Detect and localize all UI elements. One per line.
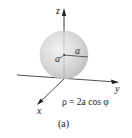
equation: ρ = 2a cos φ <box>62 97 109 107</box>
x-axis <box>40 79 64 102</box>
y-axis-label: y <box>114 83 120 94</box>
figure-caption: (a) <box>58 118 69 130</box>
center-height-label: a <box>55 53 60 64</box>
x-axis-label: x <box>36 105 42 116</box>
center-point <box>63 54 65 56</box>
z-axis-arrow-icon <box>62 8 66 16</box>
radius-label: a <box>75 45 80 56</box>
z-axis-label: z <box>55 5 60 16</box>
sphere-diagram: z y x a a ρ = 2a cos φ (a) <box>0 0 132 138</box>
